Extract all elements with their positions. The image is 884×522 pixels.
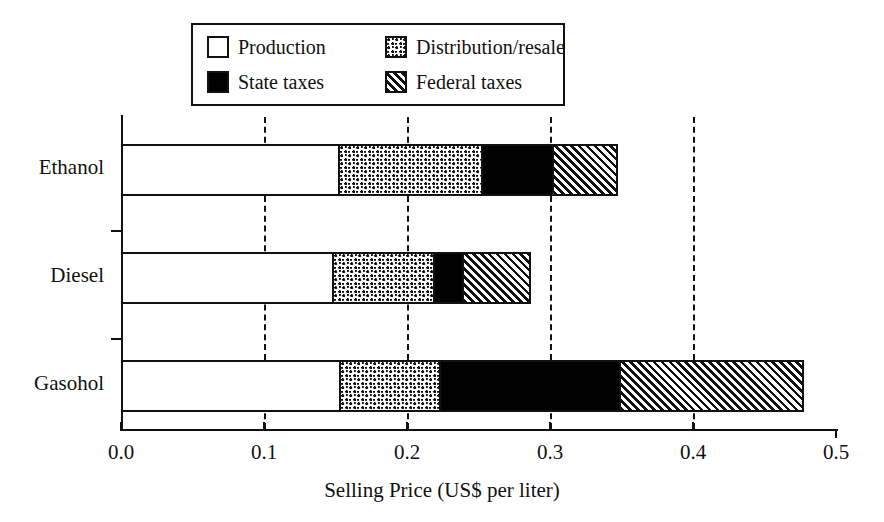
category-label-ethanol: Ethanol [39, 155, 104, 180]
y-tick-1 [111, 338, 122, 340]
stacked-bar-chart: Production Distribution/resale State tax… [0, 0, 884, 522]
bar-segment-diesel-federal-taxes[interactable] [462, 254, 529, 302]
bar-segment-diesel-state-taxes[interactable] [433, 254, 462, 302]
legend-item-production: Production [207, 29, 385, 65]
bar-segment-ethanol-federal-taxes[interactable] [552, 146, 616, 194]
x-axis-title: Selling Price (US$ per liter) [0, 478, 884, 503]
bar-segment-diesel-distribution-resale[interactable] [332, 254, 434, 302]
black-square-icon [207, 71, 229, 93]
legend-label-distribution: Distribution/resale [416, 37, 565, 57]
x-tick-label-0.1: 0.1 [251, 440, 277, 465]
y-axis-line [121, 115, 123, 431]
white-square-icon [207, 36, 229, 58]
legend-item-state-taxes: State taxes [207, 65, 385, 101]
x-tick-0.2 [406, 422, 408, 431]
category-label-diesel: Diesel [50, 263, 104, 288]
bar-segment-diesel-production[interactable] [123, 254, 332, 302]
bar-segment-ethanol-production[interactable] [123, 146, 338, 194]
x-tick-0.1 [263, 422, 265, 431]
legend-label-production: Production [238, 37, 326, 57]
legend-item-federal-taxes: Federal taxes [385, 65, 563, 101]
bar-segment-ethanol-distribution-resale[interactable] [338, 146, 481, 194]
x-tick-0.5 [835, 429, 837, 438]
legend-label-federal-taxes: Federal taxes [416, 72, 522, 92]
x-tick-label-0.3: 0.3 [537, 440, 563, 465]
bar-diesel[interactable] [121, 252, 531, 304]
x-tick-label-0.5: 0.5 [823, 440, 849, 465]
x-tick-0.0 [120, 422, 122, 431]
hatched-square-icon [385, 71, 407, 93]
chart-legend: Production Distribution/resale State tax… [191, 23, 565, 106]
x-axis-line [121, 429, 838, 431]
x-tick-0.3 [549, 422, 551, 431]
bar-segment-gasohol-state-taxes[interactable] [439, 362, 619, 410]
category-label-gasohol: Gasohol [34, 371, 104, 396]
x-tick-label-0.4: 0.4 [680, 440, 706, 465]
x-tick-0.4 [692, 422, 694, 431]
x-tick-label-0.0: 0.0 [108, 440, 134, 465]
bar-gasohol[interactable] [121, 360, 804, 412]
bar-segment-gasohol-production[interactable] [123, 362, 339, 410]
legend-item-distribution: Distribution/resale [385, 29, 563, 65]
bar-ethanol[interactable] [121, 144, 618, 196]
x-tick-label-0.2: 0.2 [394, 440, 420, 465]
bar-segment-gasohol-federal-taxes[interactable] [619, 362, 802, 410]
dotted-square-icon [385, 36, 407, 58]
plot-area [121, 117, 836, 429]
bar-segment-ethanol-state-taxes[interactable] [481, 146, 553, 194]
y-tick-0 [111, 230, 122, 232]
bar-segment-gasohol-distribution-resale[interactable] [339, 362, 439, 410]
legend-label-state-taxes: State taxes [238, 72, 324, 92]
